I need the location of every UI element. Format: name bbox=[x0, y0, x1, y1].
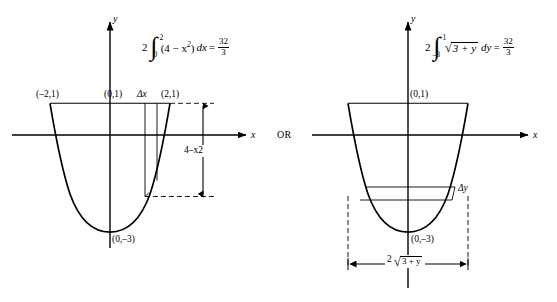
right-strip-label-delta-y: Δy bbox=[458, 184, 468, 194]
right-expr-result-fraction: 32 3 bbox=[503, 37, 514, 57]
left-point-label-minus2-1: (–2,1) bbox=[36, 90, 59, 100]
left-height-label-text: 4–x bbox=[184, 145, 198, 155]
right-integral-lower-limit: –3 bbox=[433, 51, 441, 59]
right-diagram-group bbox=[312, 22, 528, 288]
right-expr-sqrt: √ 3 + y bbox=[445, 41, 478, 54]
left-expr-integrand-tail: ) bbox=[191, 41, 195, 53]
left-strip-label-delta-x: Δx bbox=[137, 90, 147, 100]
right-y-axis-label: y bbox=[411, 14, 415, 24]
right-x-axis-label: x bbox=[533, 130, 537, 140]
left-y-axis-label: y bbox=[113, 14, 117, 24]
left-height-label: 4–x2 bbox=[183, 145, 204, 157]
left-expr-equals: = bbox=[209, 42, 215, 53]
left-integral-sign: ∫ 2 0 bbox=[151, 36, 158, 58]
right-integral-expression: 2 ∫ 1 –3 √ 3 + y dy = 32 3 bbox=[425, 36, 514, 58]
right-expr-radicand: 3 + y bbox=[451, 42, 478, 54]
left-expr-result-numerator: 32 bbox=[218, 37, 229, 47]
right-integral-upper-limit: 1 bbox=[443, 34, 447, 42]
right-point-label-0-minus3: (0,–3) bbox=[411, 235, 434, 245]
right-width-label-coefficient: 2 bbox=[387, 255, 392, 265]
right-expr-coefficient: 2 bbox=[425, 42, 431, 53]
right-expr-differential: dy bbox=[481, 42, 491, 53]
left-expr-result-fraction: 32 3 bbox=[218, 37, 229, 57]
left-expr-coefficient: 2 bbox=[142, 42, 148, 53]
left-integral-lower-limit: 0 bbox=[154, 51, 158, 59]
left-point-label-0-minus3: (0,–3) bbox=[112, 235, 135, 245]
left-integral-upper-limit: 2 bbox=[160, 34, 164, 42]
left-integral-expression: 2 ∫ 2 0 (4 − x2) dx = 32 3 bbox=[142, 36, 229, 58]
or-separator-label: OR bbox=[277, 130, 292, 140]
right-width-label: 2 √ 3 + y bbox=[385, 255, 425, 268]
left-expr-integrand: (4 − x2) bbox=[161, 41, 195, 54]
right-expr-result-numerator: 32 bbox=[503, 37, 514, 47]
figure-canvas: y x (–2,1) (0,1) (2,1) (0,–3) Δx 4–x2 2 … bbox=[0, 0, 557, 302]
left-point-label-0-1: (0,1) bbox=[104, 90, 122, 100]
right-strip-right-cap bbox=[452, 187, 455, 200]
left-expr-result-denominator: 3 bbox=[220, 48, 227, 57]
right-width-sqrt-radicand: 3 + y bbox=[400, 256, 423, 266]
right-expr-equals: = bbox=[493, 42, 499, 53]
right-width-sqrt: √ 3 + y bbox=[394, 255, 423, 268]
right-expr-result-denominator: 3 bbox=[505, 48, 512, 57]
left-expr-integrand-head: (4 − x bbox=[161, 41, 187, 53]
left-x-axis-label: x bbox=[251, 130, 255, 140]
left-point-label-2-1: (2,1) bbox=[161, 90, 179, 100]
right-point-label-0-1: (0,1) bbox=[410, 90, 428, 100]
left-expr-differential: dx bbox=[196, 42, 206, 53]
left-height-label-exponent: 2 bbox=[198, 145, 203, 155]
right-integral-sign: ∫ 1 –3 bbox=[434, 36, 441, 58]
